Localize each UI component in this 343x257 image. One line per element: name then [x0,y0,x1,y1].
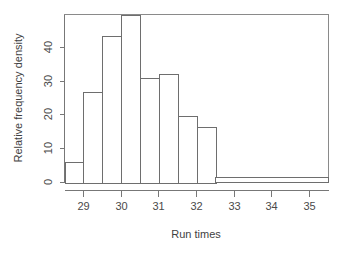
y-axis-title: Relative frequency density [12,33,24,163]
y-tick-label-10: 10 [42,142,54,154]
x-tick-label-34: 34 [265,200,277,212]
x-tick-label-29: 29 [77,200,89,212]
histogram-bar [122,16,141,184]
histogram-bar [198,128,217,184]
histogram-bar [84,93,103,184]
x-tick-label-35: 35 [303,200,315,212]
x-axis-ticks [84,191,310,197]
histogram-bar [141,79,160,184]
x-tick-label-32: 32 [190,200,202,212]
histogram-bar [216,178,329,183]
y-tick-label-0: 0 [42,179,54,185]
x-axis-title: Run times [171,228,221,240]
y-axis-tick-labels: 0 10 20 30 40 [42,41,54,185]
x-tick-label-33: 33 [228,200,240,212]
histogram-bars [66,16,329,184]
plot-area: 0 10 20 30 40 Relative frequency density… [0,0,343,257]
y-tick-label-20: 20 [42,108,54,120]
x-tick-label-30: 30 [115,200,127,212]
y-tick-label-40: 40 [42,41,54,53]
histogram-chart: 0 10 20 30 40 Relative frequency density… [0,0,343,257]
x-tick-label-31: 31 [152,200,164,212]
histogram-bar [160,75,179,184]
x-axis-tick-labels: 29 30 31 32 33 34 35 [77,200,315,212]
histogram-bar [103,37,122,184]
y-axis-ticks [60,48,65,183]
histogram-bar [179,117,198,184]
histogram-bar [66,163,85,184]
y-tick-label-30: 30 [42,75,54,87]
